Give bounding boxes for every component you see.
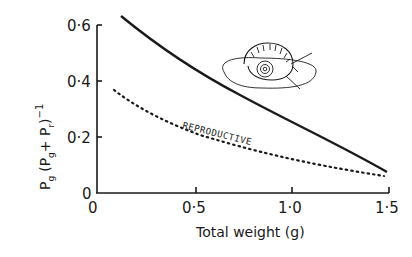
chart: 0·6 0·4 0·2 0 0 0·5 1·0 1·5 Total weight…	[0, 0, 412, 257]
y-tick-0.4: 0·4	[67, 73, 91, 91]
svg-text:Pg(Pg+ Pr)−1: Pg(Pg+ Pr)−1	[34, 104, 56, 190]
snail-illustration-icon	[223, 43, 316, 89]
y-axis-title: Pg(Pg+ Pr)−1	[34, 104, 56, 190]
x-axis-title: Total weight (g)	[195, 224, 305, 240]
x-tick-0: 0	[88, 199, 98, 217]
x-tick-0.5: 0·5	[182, 199, 206, 217]
axes	[96, 25, 389, 193]
series-reproductive-dotted	[114, 90, 384, 176]
x-tick-1.5: 1·5	[375, 199, 399, 217]
y-tick-0.2: 0·2	[67, 129, 91, 147]
series-solid-line	[121, 16, 387, 172]
reproductive-annotation: REPRODUCTIVE	[182, 120, 253, 147]
x-tick-labels: 0 0·5 1·0 1·5	[88, 199, 399, 217]
x-tick-1.0: 1·0	[278, 199, 302, 217]
y-tick-labels: 0·6 0·4 0·2 0	[67, 17, 92, 203]
y-tick-0.6: 0·6	[67, 17, 91, 35]
